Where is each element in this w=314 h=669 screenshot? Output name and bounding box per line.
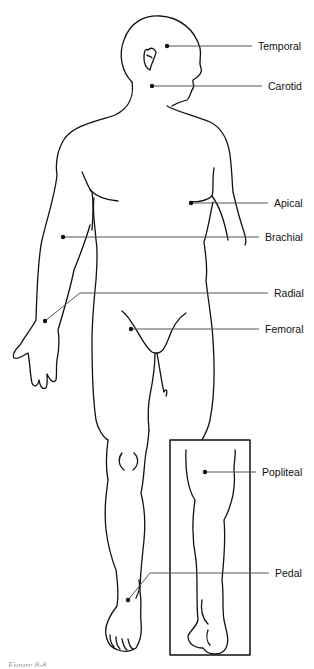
label-brachial: Brachial [265,231,303,243]
head-outline [121,16,201,106]
label-femoral: Femoral [265,323,304,335]
label-popliteal: Popliteal [262,466,302,478]
left-leg [105,430,149,651]
label-radial: Radial [274,287,304,299]
left-shoulder [13,82,132,389]
groin-line [122,311,186,353]
label-carotid: Carotid [268,80,302,92]
pulse-site-dots [43,44,207,602]
torso-left [92,198,108,440]
label-apical: Apical [274,197,303,209]
label-temporal: Temporal [258,40,301,52]
ear-outline [144,48,156,70]
leader-lines [45,46,269,600]
right-shoulder [167,106,246,245]
pulse-sites-diagram: Temporal Carotid Apical Brachial Radial … [0,0,314,669]
label-pedal: Pedal [275,567,302,579]
torso-right [202,202,214,440]
